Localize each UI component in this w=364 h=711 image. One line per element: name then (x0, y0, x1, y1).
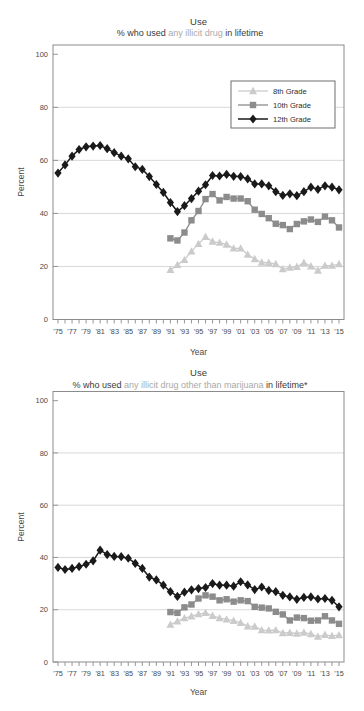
x-tick-label: '79 (81, 669, 91, 678)
x-tick-label: '97 (208, 327, 218, 336)
y-tick-label: 100 (35, 396, 48, 405)
chart-1-plot: 020406080100'75'77'79'81'83'85'87'89'91'… (35, 45, 344, 336)
y-axis: 020406080100 (35, 50, 58, 324)
x-tick-label: '91 (166, 669, 176, 678)
x-axis: '75'77'79'81'83'85'87'89'91'93'95'97'99'… (53, 662, 344, 678)
x-tick-label: '15 (334, 327, 344, 336)
chart1-subtitle-prefix: % who used (117, 28, 169, 38)
series-12th-grade (54, 141, 342, 216)
legend: 8th Grade10th Grade12th Grade (231, 81, 335, 128)
mtf-trends-page: 020406080100'75'77'79'81'83'85'87'89'91'… (0, 0, 364, 711)
plot-frame (53, 392, 344, 663)
y-tick-label: 80 (40, 449, 48, 458)
x-tick-label: '93 (180, 327, 190, 336)
x-tick-label: '81 (95, 669, 105, 678)
x-tick-label: '11 (306, 669, 315, 678)
chart1-subtitle-highlight: any illicit drug (168, 28, 223, 38)
x-tick-label: '99 (222, 327, 232, 336)
x-tick-label: '01 (236, 327, 246, 336)
x-tick-label: '03 (250, 669, 260, 678)
x-tick-label: '15 (334, 669, 344, 678)
series-8th-grade (166, 233, 343, 274)
x-tick-label: '81 (95, 327, 105, 336)
legend-label: 10th Grade (273, 101, 311, 110)
x-tick-label: '83 (109, 669, 119, 678)
y-tick-label: 40 (40, 553, 48, 562)
x-tick-label: '75 (53, 327, 63, 336)
x-tick-label: '99 (222, 669, 232, 678)
chart2-subtitle-highlight: any illicit drug other than marijuana (124, 380, 264, 390)
chart-2-plot: 020406080100'75'77'79'81'83'85'87'89'91'… (35, 392, 344, 679)
chart1-subtitle: % who used any illicit drug in lifetime (25, 27, 355, 40)
x-tick-label: '85 (123, 669, 133, 678)
chart2-title: Use (53, 366, 344, 380)
chart2-subtitle-prefix: % who used (72, 380, 124, 390)
legend-label: 12th Grade (273, 115, 311, 124)
y-tick-label: 80 (40, 103, 48, 112)
x-tick-label: '89 (152, 327, 162, 336)
x-tick-label: '09 (292, 669, 302, 678)
x-tick-label: '83 (109, 327, 119, 336)
x-tick-label: '75 (53, 669, 63, 678)
y-tick-label: 40 (40, 209, 48, 218)
x-tick-label: '79 (81, 327, 91, 336)
x-tick-label: '95 (194, 669, 204, 678)
y-tick-label: 0 (44, 658, 48, 667)
series-8th-grade (166, 609, 343, 640)
x-tick-label: '03 (250, 327, 260, 336)
x-tick-label: '97 (208, 669, 218, 678)
x-tick-label: '13 (320, 669, 330, 678)
y-tick-label: 60 (40, 501, 48, 510)
chart1-subtitle-suffix: in lifetime (223, 28, 264, 38)
legend-label: 8th Grade (273, 87, 307, 96)
x-tick-label: '07 (278, 669, 288, 678)
x-tick-label: '91 (166, 327, 176, 336)
x-tick-label: '77 (67, 669, 77, 678)
chart1-x-axis-title: Year (53, 346, 344, 358)
chart1-y-axis-title: Percent (16, 167, 26, 196)
x-tick-label: '87 (138, 669, 148, 678)
x-tick-label: '95 (194, 327, 204, 336)
y-tick-label: 20 (40, 262, 48, 271)
x-tick-label: '01 (236, 669, 246, 678)
y-tick-label: 60 (40, 156, 48, 165)
x-tick-label: '13 (320, 327, 330, 336)
x-tick-label: '89 (152, 669, 162, 678)
x-tick-label: '85 (123, 327, 133, 336)
chart2-subtitle: % who used any illicit drug other than m… (25, 379, 355, 392)
x-tick-label: '93 (180, 669, 190, 678)
chart2-x-axis-title: Year (53, 686, 344, 698)
x-tick-label: '87 (138, 327, 148, 336)
x-axis: '75'77'79'81'83'85'87'89'91'93'95'97'99'… (53, 320, 344, 337)
x-tick-label: '11 (306, 327, 315, 336)
x-tick-label: '77 (67, 327, 77, 336)
x-tick-label: '07 (278, 327, 288, 336)
y-tick-label: 20 (40, 605, 48, 614)
chart2-subtitle-suffix: in lifetime* (264, 380, 308, 390)
y-tick-label: 100 (35, 50, 48, 59)
y-tick-label: 0 (44, 315, 48, 324)
chart2-y-axis-title: Percent (16, 512, 26, 541)
x-tick-label: '05 (264, 669, 274, 678)
x-tick-label: '05 (264, 327, 274, 336)
y-axis: 020406080100 (35, 396, 58, 666)
x-tick-label: '09 (292, 327, 302, 336)
